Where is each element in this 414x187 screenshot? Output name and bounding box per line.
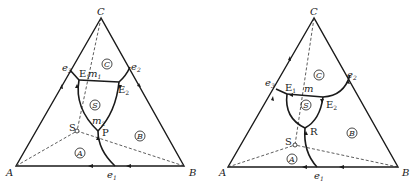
vertex-b-label: B <box>188 167 196 178</box>
e3-sub: 3 <box>68 67 72 74</box>
e1-sub: 1 <box>113 174 117 181</box>
arrow-icon <box>339 165 344 169</box>
point-s-marker <box>293 143 297 147</box>
P-label: P <box>102 127 109 138</box>
ternary-diagram-left: C S B A C A B e3 e2 e1 E1 m1 E2 m2 P S <box>5 6 196 181</box>
arrow-icon <box>271 96 274 101</box>
join-b-s <box>295 145 398 167</box>
svg-text:E2: E2 <box>118 84 129 96</box>
svg-text:e1: e1 <box>314 170 324 182</box>
m1-sub: 1 <box>97 73 101 80</box>
e2-sub: 2 <box>352 74 357 81</box>
field-a-label: A <box>288 155 295 164</box>
arrow-icon <box>126 164 131 168</box>
E2-sub: 2 <box>125 89 129 96</box>
field-c-label: C <box>104 60 110 69</box>
svg-text:e2: e2 <box>347 69 357 81</box>
vertex-c-label: C <box>310 6 318 17</box>
E2-label: E <box>326 99 333 110</box>
m2-label: m <box>92 115 101 126</box>
m1-label: m <box>88 68 97 79</box>
vertex-a-label: A <box>5 167 13 178</box>
arrow-icon <box>302 165 307 169</box>
phase-diagrams: C S B A C A B e3 e2 e1 E1 m1 E2 m2 P S <box>0 0 414 187</box>
vertex-a-label: A <box>218 167 226 178</box>
m2-sub: 2 <box>100 120 105 127</box>
E1-label: E <box>285 82 292 93</box>
svg-text:E1: E1 <box>285 82 296 94</box>
field-s-label: S <box>303 101 309 110</box>
E1-sub: 1 <box>292 87 296 94</box>
svg-text:E2: E2 <box>326 99 337 111</box>
S-label: S <box>285 136 292 147</box>
m-label: m <box>304 83 313 94</box>
svg-text:e2: e2 <box>131 61 141 73</box>
e1-sub: 1 <box>320 175 324 182</box>
field-b-label: B <box>348 129 355 138</box>
join-a-s <box>16 131 77 166</box>
E1-label: E <box>79 68 86 79</box>
E2-label: E <box>118 84 125 95</box>
svg-text:m2: m2 <box>92 115 105 127</box>
field-c-label: C <box>316 71 322 80</box>
e3-sub: 3 <box>271 82 275 89</box>
E2-sub: 2 <box>333 104 337 111</box>
svg-text:e3: e3 <box>265 77 275 89</box>
svg-text:e1: e1 <box>107 169 117 181</box>
boundary-e2-e2pt <box>119 67 130 82</box>
boundary-e2-e2pt <box>323 75 350 97</box>
vertex-b-label: B <box>401 167 409 178</box>
field-a-label: A <box>76 149 83 158</box>
svg-text:m1: m1 <box>88 68 101 80</box>
boundary-e1-e2 <box>79 80 119 82</box>
arrow-icon <box>320 99 324 103</box>
svg-text:e3: e3 <box>62 62 72 74</box>
S-label: S <box>69 122 76 133</box>
arrow-icon <box>88 164 93 168</box>
field-s-label: S <box>92 101 98 110</box>
e2-sub: 2 <box>136 66 141 73</box>
vertex-c-label: C <box>97 6 105 17</box>
field-b-label: B <box>136 132 143 141</box>
R-label: R <box>310 126 318 137</box>
ternary-diagram-right: C S B A C A B e3 e2 e1 E1 m E2 R S <box>218 6 409 182</box>
